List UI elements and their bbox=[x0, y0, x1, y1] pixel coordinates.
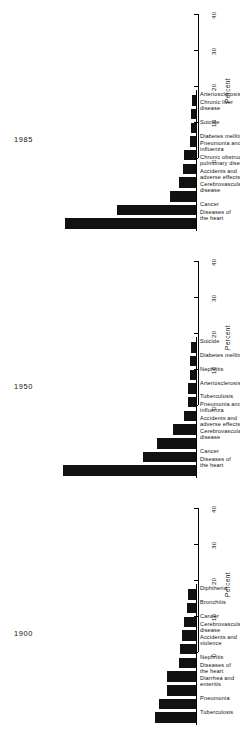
category-label: Pneumonia bbox=[200, 695, 240, 701]
axis-tick-label: 10 bbox=[210, 614, 217, 621]
axis-tick bbox=[194, 369, 198, 370]
chart-year-label: 1985 bbox=[14, 135, 33, 144]
category-label: Accidents and adverse effects bbox=[200, 167, 240, 179]
axis-tick bbox=[194, 50, 198, 51]
category-label: Chronic liver disease bbox=[200, 99, 240, 111]
axis-tick-label: 40 bbox=[210, 259, 217, 266]
chart-year-label: 1950 bbox=[14, 382, 33, 391]
category-label: Cancer bbox=[200, 448, 240, 454]
category-label: Pneumonia and influenza bbox=[200, 401, 240, 413]
chart-baseline bbox=[196, 584, 197, 725]
axis-tick-label: 30 bbox=[210, 295, 217, 302]
axis-tick bbox=[194, 580, 198, 581]
bar bbox=[184, 617, 196, 628]
chart-panel-1985: 1985Diseases of the heartCancerCerebrova… bbox=[0, 0, 240, 247]
chart-baseline bbox=[196, 90, 197, 231]
bar bbox=[170, 191, 196, 202]
axis-tick bbox=[194, 652, 198, 653]
category-label: Tuberculosis bbox=[200, 709, 240, 715]
category-label: Suicide bbox=[200, 338, 240, 344]
bar bbox=[183, 164, 196, 175]
axis-tick bbox=[194, 297, 198, 298]
category-label: Cancer bbox=[200, 201, 240, 207]
axis-title: Percent bbox=[224, 325, 231, 350]
bar bbox=[190, 356, 196, 367]
category-label: Nephritis bbox=[200, 654, 240, 660]
bar bbox=[159, 699, 196, 710]
bar bbox=[65, 219, 196, 230]
bar bbox=[184, 411, 196, 422]
axis-tick-label: 40 bbox=[210, 12, 217, 19]
bar bbox=[157, 438, 196, 449]
axis-tick-label: 20 bbox=[210, 578, 217, 585]
category-label: Tuberculosis bbox=[200, 393, 240, 399]
axis-tick bbox=[194, 544, 198, 545]
bar bbox=[167, 671, 196, 682]
bar bbox=[191, 123, 196, 134]
axis-tick-label: 30 bbox=[210, 48, 217, 55]
category-label: Bronchitis bbox=[200, 599, 240, 605]
bar bbox=[188, 383, 196, 394]
percent-axis-line bbox=[198, 14, 199, 158]
axis-tick-label: 0 bbox=[210, 653, 217, 657]
category-label: Diarrhea and enteritis bbox=[200, 675, 240, 687]
category-label: Pneumonia and influenza bbox=[200, 140, 240, 152]
axis-tick bbox=[194, 261, 198, 262]
percent-axis-line bbox=[198, 508, 199, 652]
bar bbox=[187, 603, 196, 614]
bar bbox=[190, 370, 196, 381]
bar bbox=[173, 424, 196, 435]
category-label: Diseases of the heart bbox=[200, 455, 240, 467]
category-label: Diseases of the heart bbox=[200, 208, 240, 220]
three-panel-bar-chart-figure: 1985Diseases of the heartCancerCerebrova… bbox=[0, 0, 240, 741]
chart-panel-1900: 1900TuberculosisPneumoniaDiarrhea and en… bbox=[0, 494, 240, 741]
chart-plot-area: 1950Diseases of the heartCancerCerebrova… bbox=[0, 247, 240, 494]
axis-tick-label: 10 bbox=[210, 367, 217, 374]
category-label: Diseases of the heart bbox=[200, 661, 240, 673]
bar bbox=[190, 136, 196, 147]
bar bbox=[179, 658, 196, 669]
bar bbox=[155, 713, 196, 724]
bar bbox=[143, 452, 196, 463]
chart-baseline bbox=[196, 337, 197, 478]
axis-title: Percent bbox=[224, 572, 231, 597]
axis-tick bbox=[194, 405, 198, 406]
axis-tick-label: 20 bbox=[210, 84, 217, 91]
category-label: Cerebrovascular disease bbox=[200, 181, 240, 193]
category-label: Diabetes mellitus bbox=[200, 132, 240, 138]
axis-tick-label: 20 bbox=[210, 331, 217, 338]
percent-axis-line bbox=[198, 261, 199, 405]
axis-tick bbox=[194, 508, 198, 509]
category-label: Suicide bbox=[200, 119, 240, 125]
axis-tick bbox=[194, 122, 198, 123]
category-label: Diabetes mellitus bbox=[200, 352, 240, 358]
category-label: Chronic obstructive pulmonary diseases bbox=[200, 154, 240, 166]
axis-tick-label: 0 bbox=[210, 406, 217, 410]
category-label: Nephritis bbox=[200, 366, 240, 372]
bar bbox=[63, 466, 196, 477]
bar bbox=[191, 109, 196, 120]
category-label: Cerebrovascular disease bbox=[200, 620, 240, 632]
category-label: Cerebrovascular disease bbox=[200, 428, 240, 440]
axis-tick-label: 0 bbox=[210, 159, 217, 163]
category-label: Accidents and violence bbox=[200, 634, 240, 646]
bar bbox=[179, 177, 196, 188]
axis-title: Percent bbox=[224, 78, 231, 103]
axis-tick bbox=[194, 86, 198, 87]
axis-tick bbox=[194, 616, 198, 617]
category-label: Accidents and adverse effects bbox=[200, 414, 240, 426]
category-label: Arteriosclerosis bbox=[200, 379, 240, 385]
axis-tick bbox=[194, 14, 198, 15]
chart-plot-area: 1985Diseases of the heartCancerCerebrova… bbox=[0, 0, 240, 247]
axis-tick-label: 40 bbox=[210, 506, 217, 513]
axis-tick bbox=[194, 158, 198, 159]
bar bbox=[188, 589, 196, 600]
chart-plot-area: 1900TuberculosisPneumoniaDiarrhea and en… bbox=[0, 494, 240, 741]
category-label: Arteriosclerosis bbox=[200, 91, 240, 97]
bar bbox=[117, 205, 196, 216]
category-label: Cancer bbox=[200, 613, 240, 619]
bar bbox=[167, 685, 196, 696]
bar bbox=[192, 95, 196, 106]
bar bbox=[191, 342, 196, 353]
chart-year-label: 1900 bbox=[14, 629, 33, 638]
